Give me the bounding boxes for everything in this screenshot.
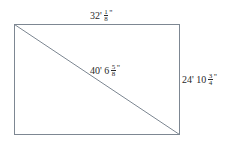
diagonal-unit: " [117, 64, 120, 74]
diagonal-label: 40' 6 5 8 " [90, 64, 120, 77]
top-width-whole: 32' [90, 11, 102, 21]
right-height-label: 24' 10 3 4 " [182, 73, 217, 86]
top-width-denominator: 8 [104, 16, 108, 22]
top-width-unit: " [109, 9, 112, 19]
diagonal-denominator: 8 [112, 71, 116, 77]
diagonal-line [15, 25, 180, 135]
diagonal-fraction: 5 8 [111, 64, 116, 77]
right-height-unit: " [214, 73, 217, 83]
diagonal-whole: 40' 6 [90, 66, 109, 76]
top-width-fraction: 1 8 [104, 9, 109, 22]
right-height-fraction: 3 4 [208, 73, 213, 86]
right-height-whole: 24' 10 [182, 75, 206, 85]
top-width-label: 32' 1 8 " [90, 9, 113, 22]
right-height-denominator: 4 [209, 80, 213, 86]
